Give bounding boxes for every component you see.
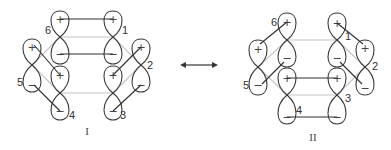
minus-sign: −	[253, 79, 262, 92]
structure-I: +−1+−2+−3+−4+−5+−6I	[17, 11, 153, 137]
plus-sign: +	[253, 43, 262, 56]
p-orbital-2: +−2	[132, 39, 153, 92]
minus-sign: −	[27, 79, 36, 92]
sigma-ring	[258, 40, 365, 95]
structure-label: I	[85, 125, 89, 137]
atom-number: 5	[17, 76, 23, 88]
p-orbital-5: +−5	[243, 40, 267, 95]
structure-label: II	[309, 131, 317, 143]
resonance-arrow	[180, 62, 218, 68]
atom-number: 3	[345, 92, 351, 104]
p-orbital-5: +−5	[17, 39, 41, 92]
arrow-head-left-icon	[180, 62, 186, 68]
structure-II: +−1+−2+−3+−4+−5+−6II	[243, 13, 378, 143]
atom-number: 2	[372, 60, 378, 72]
p-orbital-2: +−2	[356, 40, 378, 95]
atom-number: 3	[120, 109, 126, 121]
sigma-ring	[32, 37, 141, 93]
arrow-head-right-icon	[212, 62, 218, 68]
p-orbital-4: +−4	[278, 68, 302, 124]
atom-number: 2	[147, 59, 153, 71]
atom-number: 6	[271, 16, 277, 28]
atom-number: 5	[243, 79, 249, 91]
atom-number: 6	[45, 24, 51, 36]
atom-number: 1	[122, 24, 128, 36]
atom-number: 4	[296, 104, 302, 116]
pi-bond	[262, 62, 284, 84]
p-orbital-3: +−3	[328, 68, 351, 124]
benzene-resonance-diagram: +−1+−2+−3+−4+−5+−6I+−1+−2+−3+−4+−5+−6II	[0, 0, 391, 150]
atom-number: 4	[69, 109, 75, 121]
